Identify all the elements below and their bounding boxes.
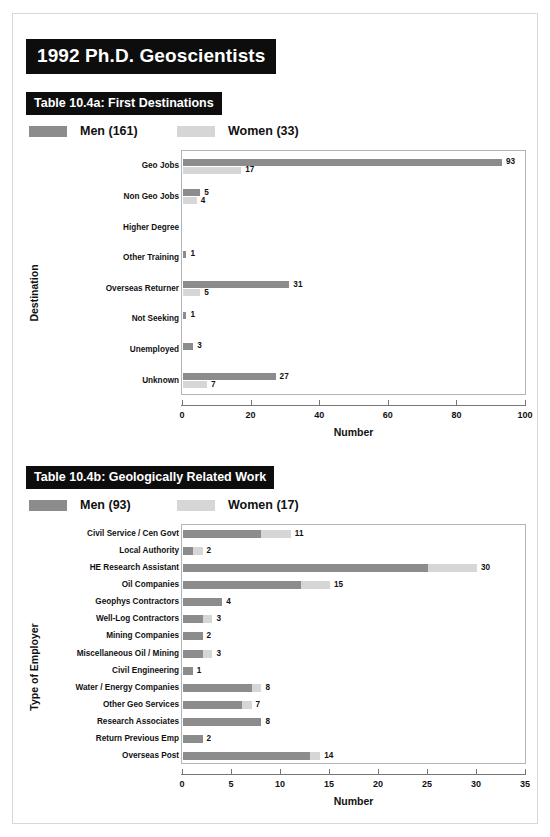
x-axis-line	[181, 774, 526, 775]
x-axis-tick	[427, 769, 428, 774]
legend-item-men-a: Men (161)	[29, 122, 138, 140]
x-axis-tick	[525, 400, 526, 405]
bar-value-label: 4	[226, 597, 231, 606]
bar-value-label: 5	[204, 287, 209, 296]
chart-b-y-axis-title-text: Type of Employer	[28, 623, 40, 710]
bar-value-label: 1	[197, 665, 202, 674]
section-first-destinations: Table 10.4a: First Destinations Men (161…	[26, 92, 526, 438]
legend-swatch-men-icon	[29, 500, 67, 511]
chart-b-y-axis-title: Type of Employer	[26, 522, 42, 812]
category-label: Overseas Returner	[106, 283, 179, 292]
legend-label-men: Men (93)	[80, 498, 131, 512]
bar-men	[183, 581, 301, 589]
x-axis-tick-label: 15	[324, 779, 334, 789]
x-axis-tick	[319, 400, 320, 405]
chart-a-plot-area	[181, 150, 526, 395]
bar-value-label: 1	[190, 249, 195, 258]
bar-women	[310, 752, 320, 760]
chart-first-destinations: Destination Geo JobsNon Geo JobsHigher D…	[26, 148, 526, 438]
category-label: Overseas Post	[122, 751, 179, 760]
bar-men	[183, 189, 200, 196]
category-label: Research Associates	[97, 717, 179, 726]
bar-men	[183, 650, 203, 658]
bar-women	[301, 581, 330, 589]
bar-women	[183, 289, 200, 296]
x-axis-title: Number	[334, 426, 374, 438]
x-axis-tick-label: 40	[314, 410, 324, 420]
bar-men	[183, 598, 222, 606]
x-axis-tick	[231, 769, 232, 774]
bar-women	[252, 684, 262, 692]
legend-b: Men (93) Women (17)	[26, 496, 526, 514]
bar-value-label: 2	[207, 545, 212, 554]
x-axis-tick	[182, 400, 183, 405]
x-axis-tick-label: 25	[422, 779, 432, 789]
bar-value-label: 15	[334, 580, 343, 589]
bar-value-label: 7	[256, 700, 261, 709]
bar-value-label: 1	[190, 310, 195, 319]
bar-women	[261, 530, 290, 538]
bar-women	[183, 381, 207, 388]
legend-swatch-women-icon	[177, 500, 215, 511]
x-axis-tick	[476, 769, 477, 774]
legend-swatch-women-icon	[177, 126, 215, 137]
legend-swatch-men-icon	[29, 126, 67, 137]
category-label: Oil Companies	[122, 580, 179, 589]
bar-men	[183, 701, 242, 709]
category-label: Unemployed	[130, 345, 179, 354]
bar-men	[183, 251, 186, 258]
bar-men	[183, 564, 428, 572]
bar-value-label: 14	[324, 751, 333, 760]
x-axis-tick-label: 5	[228, 779, 233, 789]
category-label: Unknown	[142, 375, 179, 384]
bar-value-label: 30	[481, 562, 490, 571]
bar-women	[203, 650, 213, 658]
legend-item-men-b: Men (93)	[29, 496, 131, 514]
x-axis-tick	[329, 769, 330, 774]
bar-men	[183, 615, 203, 623]
category-label: Return Previous Emp	[96, 734, 179, 743]
category-label: Mining Companies	[106, 631, 179, 640]
bar-value-label: 8	[265, 717, 270, 726]
bar-value-label: 2	[207, 631, 212, 640]
bar-men	[183, 373, 276, 380]
x-axis-tick-label: 35	[520, 779, 530, 789]
chart-b-category-labels: Civil Service / Cen GovtLocal AuthorityH…	[42, 524, 179, 764]
x-axis-tick-label: 60	[383, 410, 393, 420]
bar-men	[183, 735, 203, 743]
bar-value-label: 17	[245, 165, 254, 174]
category-label: Not Seeking	[132, 314, 179, 323]
page-title: 1992 Ph.D. Geoscientists	[26, 39, 276, 74]
section-b-title: Table 10.4b: Geologically Related Work	[26, 466, 274, 489]
category-label: Miscellaneous Oil / Mining	[77, 648, 179, 657]
bar-value-label: 3	[197, 341, 202, 350]
bar-value-label: 3	[216, 648, 221, 657]
category-label: Geophys Contractors	[95, 597, 179, 606]
bar-men	[183, 312, 186, 319]
bar-women	[242, 701, 252, 709]
bar-women	[183, 197, 197, 204]
x-axis-tick-label: 100	[517, 410, 532, 420]
chart-a-category-labels: Geo JobsNon Geo JobsHigher DegreeOther T…	[42, 150, 179, 395]
category-label: Civil Engineering	[112, 665, 179, 674]
x-axis-tick-label: 0	[179, 410, 184, 420]
x-axis-tick	[456, 400, 457, 405]
chart-a-y-axis-title: Destination	[26, 148, 42, 438]
bar-men	[183, 752, 310, 760]
x-axis-tick-label: 10	[275, 779, 285, 789]
chart-geologically-related-work: Type of Employer Civil Service / Cen Gov…	[26, 522, 526, 812]
x-axis-tick-label: 20	[373, 779, 383, 789]
legend-a: Men (161) Women (33)	[26, 122, 526, 140]
x-axis-tick	[280, 769, 281, 774]
category-label: Higher Degree	[123, 222, 179, 231]
legend-label-women: Women (33)	[228, 124, 299, 138]
legend-label-women: Women (17)	[228, 498, 299, 512]
category-label: Other Geo Services	[103, 700, 179, 709]
bar-men	[183, 159, 502, 166]
category-label: Non Geo Jobs	[124, 191, 180, 200]
x-axis-tick-label: 0	[179, 779, 184, 789]
bar-men	[183, 547, 193, 555]
x-axis-tick-label: 20	[246, 410, 256, 420]
bar-value-label: 11	[295, 528, 304, 537]
bar-men	[183, 632, 203, 640]
